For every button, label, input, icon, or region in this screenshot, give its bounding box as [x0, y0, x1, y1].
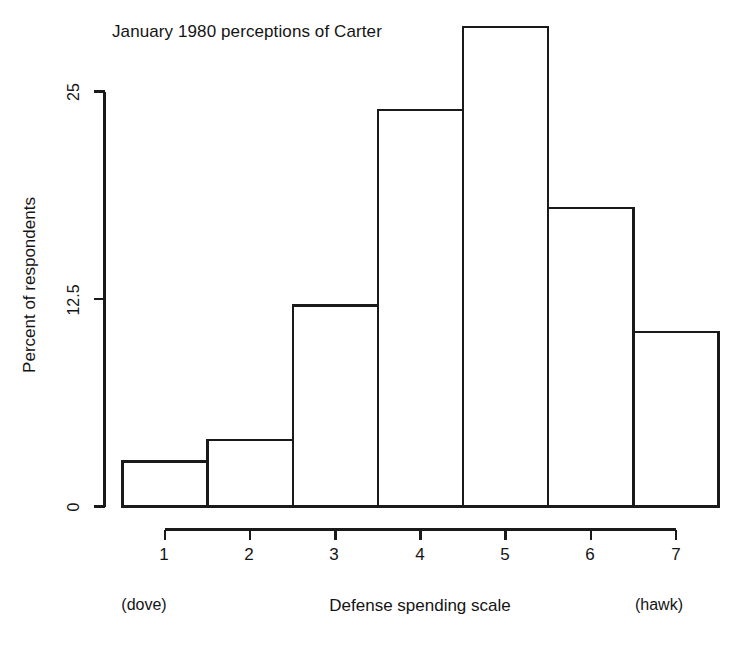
bar-4 — [378, 110, 463, 507]
bar-2 — [208, 440, 293, 506]
bar-1 — [123, 462, 208, 507]
bar-5 — [463, 27, 548, 507]
bar-3 — [293, 306, 378, 507]
x-axis — [165, 530, 676, 540]
bar-7 — [633, 332, 718, 506]
histogram-figure: January 1980 perceptions of Carter Perce… — [0, 0, 743, 649]
bar-series — [123, 27, 719, 507]
plot-area — [0, 0, 743, 649]
bar-6 — [548, 208, 633, 507]
y-axis — [94, 92, 105, 507]
